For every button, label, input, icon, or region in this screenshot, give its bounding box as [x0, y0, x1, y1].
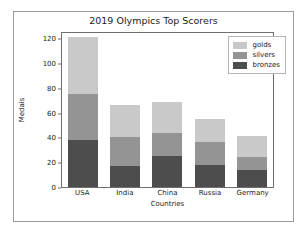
x-axis-label: Countries [61, 200, 274, 208]
legend-item-bronzes[interactable]: bronzes [233, 60, 280, 70]
bar-china[interactable] [152, 102, 182, 187]
legend-swatch-bronzes [233, 62, 247, 69]
legend-item-silvers[interactable]: silvers [233, 50, 280, 60]
bar-segment-bronzes[interactable] [110, 166, 140, 187]
y-tick-label: 40 [47, 134, 56, 142]
bar-segment-bronzes[interactable] [152, 156, 182, 187]
legend-swatch-golds [233, 42, 247, 49]
legend-swatch-silvers [233, 52, 247, 59]
y-tick-label: 60 [47, 110, 56, 118]
bar-russia[interactable] [195, 119, 225, 187]
legend-label: silvers [252, 51, 275, 59]
legend-label: golds [252, 41, 271, 49]
y-tick-label: 120 [43, 35, 56, 43]
chart-title: 2019 Olympics Top Scorers [14, 15, 293, 26]
figure-container: 2019 Olympics Top Scorers Medals 0204060… [13, 11, 294, 222]
legend: goldssilversbronzes [228, 36, 286, 74]
legend-label: bronzes [252, 61, 280, 69]
bar-segment-bronzes[interactable] [237, 170, 267, 187]
y-tick-label: 100 [43, 60, 56, 68]
y-tick-label: 80 [47, 85, 56, 93]
bar-segment-silvers[interactable] [195, 142, 225, 164]
bar-segment-silvers[interactable] [110, 137, 140, 165]
y-tick-label: 20 [47, 159, 56, 167]
bar-segment-golds[interactable] [237, 136, 267, 157]
bar-segment-silvers[interactable] [237, 157, 267, 169]
bar-india[interactable] [110, 105, 140, 187]
bar-segment-golds[interactable] [152, 102, 182, 133]
bar-germany[interactable] [237, 136, 267, 187]
legend-item-golds[interactable]: golds [233, 40, 280, 50]
bar-segment-silvers[interactable] [152, 133, 182, 157]
bar-segment-golds[interactable] [68, 37, 98, 94]
bar-segment-silvers[interactable] [68, 94, 98, 140]
y-tick-label: 0 [52, 184, 56, 192]
bar-segment-bronzes[interactable] [195, 165, 225, 187]
y-axis-ticks: 020406080100120 [14, 32, 61, 188]
bar-segment-golds[interactable] [110, 105, 140, 137]
bar-segment-bronzes[interactable] [68, 140, 98, 187]
bar-segment-golds[interactable] [195, 119, 225, 143]
bar-usa[interactable] [68, 37, 98, 187]
